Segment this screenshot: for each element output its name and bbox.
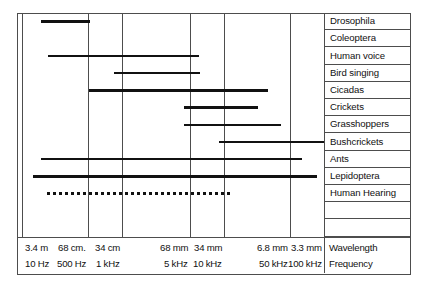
range-bar-grasshoppers [184,124,281,127]
axis-title-divider [324,238,325,273]
tick-frequency-10khz: 10 kHz [193,259,222,269]
tick-frequency-100khz: 100 kHz [288,259,322,269]
species-label-text: Bushcrickets [325,137,383,147]
species-label-row-lepidoptera: Lepidoptera [325,168,411,185]
range-bar-drosophila [41,20,90,23]
range-bar-lepidoptera [33,175,317,178]
species-label-row-ants: Ants [325,151,411,168]
species-label-text: Human voice [325,51,385,61]
species-label-row-bushcrickets: Bushcrickets [325,133,411,150]
tick-frequency-50khz: 50 kHz [259,259,288,269]
range-bar-ants [41,158,302,161]
species-label-text: Human Hearing [325,188,396,198]
axis-title-wavelength: Wavelength [329,243,377,253]
species-label-row-crickets: Crickets [325,99,411,116]
tick-frequency-1khz: 1 kHz [96,259,120,269]
species-label-row-empty-12 [325,219,411,236]
range-bar-bird-singing [114,72,200,75]
range-bar-cicadas [89,89,268,92]
range-bar-bushcrickets [219,141,324,144]
tick-frequency-10hz: 10 Hz [25,259,49,269]
species-label-text: Bird singing [325,68,379,78]
gridline-50 kHz [290,13,291,237]
species-label-text: Drosophila [325,16,375,26]
axis-row-frequency: 10 Hz500 Hz1 kHz5 kHz10 kHz50 kHz100 kHz… [17,255,411,273]
gridline-1 kHz [122,13,123,237]
species-label-text: Grasshoppers [325,119,389,129]
tick-wavelength-1khz: 34 cm [95,243,120,253]
range-bar-human-hearing [47,192,230,195]
tick-wavelength-500hz: 68 cm. [58,243,86,253]
species-label-row-human-hearing: Human Hearing [325,185,411,202]
gridline-500 Hz [88,13,89,237]
tick-wavelength-5khz: 68 mm [160,243,188,253]
species-label-text: Lepidoptera [325,171,380,181]
species-label-column: DrosophilaColeopteraHuman voiceBird sing… [324,13,411,237]
tick-frequency-5khz: 5 kHz [164,259,188,269]
species-label-row-cicadas: Cicadas [325,82,411,99]
gridline-10 Hz [22,13,23,237]
species-label-row-coleoptera: Coleoptera [325,30,411,47]
species-label-text: Crickets [325,102,364,112]
range-bar-human-voice [48,55,199,58]
axis-title-frequency: Frequency [329,259,373,269]
species-label-row-bird-singing: Bird singing [325,65,411,82]
tick-wavelength-50khz: 6.8 mm [257,243,288,253]
plot-area [17,13,324,237]
axis-block: 3.4 m68 cm.34 cm68 mm34 mm6.8 mm3.3 mmWa… [17,237,411,273]
tick-frequency-500hz: 500 Hz [57,259,86,269]
species-label-row-empty-11 [325,202,411,219]
range-bar-crickets [184,106,258,109]
species-label-row-grasshoppers: Grasshoppers [325,116,411,133]
tick-wavelength-10khz: 34 mm [194,243,222,253]
species-label-text: Cicadas [325,85,364,95]
species-label-row-human-voice: Human voice [325,47,411,64]
species-label-text: Ants [325,154,349,164]
frequency-range-chart: DrosophilaColeopteraHuman voiceBird sing… [17,13,411,275]
tick-wavelength-10hz: 3.4 m [25,243,48,253]
species-label-text: Coleoptera [325,33,376,43]
species-label-row-drosophila: Drosophila [325,13,411,30]
tick-wavelength-100khz: 3.3 mm [291,243,322,253]
